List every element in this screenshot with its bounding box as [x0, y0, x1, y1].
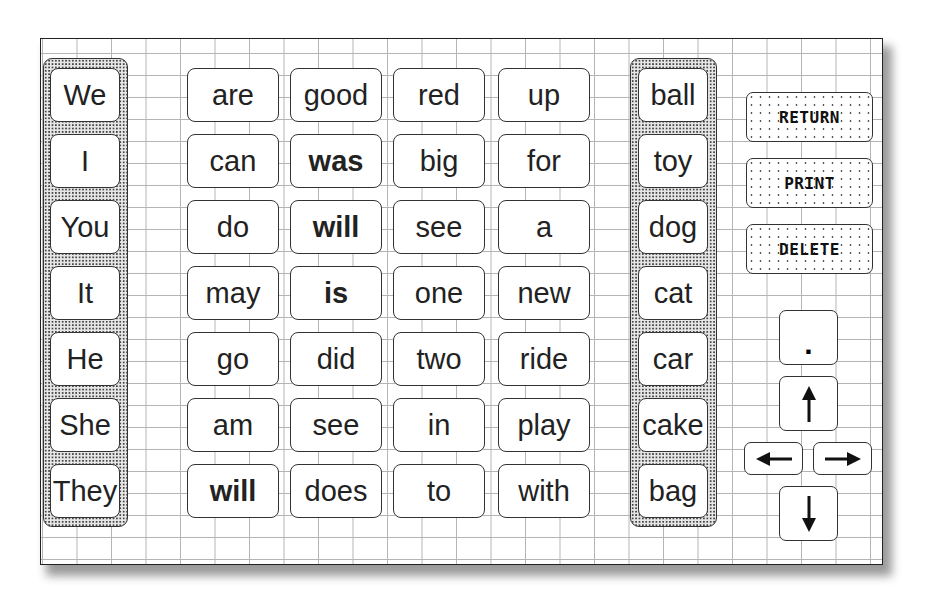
- word-label: She: [59, 409, 111, 442]
- word-button[interactable]: in: [393, 398, 485, 452]
- word-label: does: [305, 475, 368, 508]
- arrow-left-key[interactable]: [744, 442, 803, 475]
- pronoun-word-button[interactable]: He: [50, 332, 120, 386]
- noun-word-button[interactable]: dog: [638, 200, 708, 254]
- word-label: toy: [654, 145, 693, 178]
- noun-word-button[interactable]: bag: [638, 464, 708, 518]
- noun-word-button[interactable]: cake: [638, 398, 708, 452]
- word-label: up: [528, 79, 560, 112]
- word-label: new: [517, 277, 570, 310]
- word-button[interactable]: may: [187, 266, 279, 320]
- word-button[interactable]: big: [393, 134, 485, 188]
- arrow-up-icon: [799, 384, 819, 424]
- noun-word-button[interactable]: ball: [638, 68, 708, 122]
- word-button[interactable]: see: [393, 200, 485, 254]
- word-button[interactable]: play: [498, 398, 590, 452]
- pronoun-word-button[interactable]: She: [50, 398, 120, 452]
- word-button[interactable]: with: [498, 464, 590, 518]
- word-label: one: [415, 277, 463, 310]
- word-label: good: [304, 79, 369, 112]
- word-label: We: [64, 79, 107, 112]
- word-label: will: [313, 211, 360, 244]
- noun-word-button[interactable]: car: [638, 332, 708, 386]
- word-label: am: [213, 409, 253, 442]
- word-label: dog: [649, 211, 697, 244]
- noun-word-button[interactable]: cat: [638, 266, 708, 320]
- arrow-right-key[interactable]: [813, 442, 872, 475]
- word-label: cake: [642, 409, 703, 442]
- period-label: .: [804, 327, 812, 361]
- word-label: It: [77, 277, 93, 310]
- delete-button[interactable]: DELETE: [746, 224, 873, 274]
- arrow-right-icon: [823, 449, 863, 469]
- pronoun-word-button[interactable]: It: [50, 266, 120, 320]
- word-button[interactable]: will: [290, 200, 382, 254]
- word-button[interactable]: two: [393, 332, 485, 386]
- word-label: can: [210, 145, 257, 178]
- word-button[interactable]: did: [290, 332, 382, 386]
- word-label: is: [324, 277, 348, 310]
- word-label: play: [517, 409, 570, 442]
- word-label: two: [416, 343, 461, 376]
- word-button[interactable]: do: [187, 200, 279, 254]
- pronoun-word-button[interactable]: We: [50, 68, 120, 122]
- word-label: go: [217, 343, 249, 376]
- pronoun-word-button[interactable]: I: [50, 134, 120, 188]
- arrow-left-icon: [754, 449, 794, 469]
- word-button[interactable]: was: [290, 134, 382, 188]
- pronoun-word-button[interactable]: You: [50, 200, 120, 254]
- word-button[interactable]: good: [290, 68, 382, 122]
- word-label: to: [427, 475, 451, 508]
- word-label: see: [313, 409, 360, 442]
- word-label: was: [309, 145, 364, 178]
- word-label: red: [418, 79, 460, 112]
- print-label: PRINT: [784, 174, 835, 193]
- word-label: see: [416, 211, 463, 244]
- word-label: You: [61, 211, 110, 244]
- word-button[interactable]: ride: [498, 332, 590, 386]
- word-label: did: [317, 343, 356, 376]
- word-button[interactable]: am: [187, 398, 279, 452]
- word-label: car: [653, 343, 693, 376]
- word-label: do: [217, 211, 249, 244]
- word-button[interactable]: red: [393, 68, 485, 122]
- print-button[interactable]: PRINT: [746, 158, 873, 208]
- noun-word-button[interactable]: toy: [638, 134, 708, 188]
- word-button[interactable]: a: [498, 200, 590, 254]
- word-button[interactable]: new: [498, 266, 590, 320]
- arrow-down-icon: [799, 494, 819, 534]
- word-label: ride: [520, 343, 568, 376]
- word-label: ball: [650, 79, 695, 112]
- word-label: for: [527, 145, 561, 178]
- word-button[interactable]: will: [187, 464, 279, 518]
- word-button[interactable]: can: [187, 134, 279, 188]
- word-button[interactable]: are: [187, 68, 279, 122]
- word-label: bag: [649, 475, 697, 508]
- word-button[interactable]: does: [290, 464, 382, 518]
- word-label: will: [210, 475, 257, 508]
- word-label: with: [518, 475, 570, 508]
- delete-label: DELETE: [779, 240, 840, 259]
- arrow-down-key[interactable]: [779, 486, 838, 541]
- word-label: in: [428, 409, 451, 442]
- word-label: He: [66, 343, 103, 376]
- word-button[interactable]: one: [393, 266, 485, 320]
- word-button[interactable]: is: [290, 266, 382, 320]
- period-key[interactable]: .: [779, 310, 838, 365]
- word-button[interactable]: for: [498, 134, 590, 188]
- word-label: may: [206, 277, 261, 310]
- word-label: I: [81, 145, 89, 178]
- arrow-up-key[interactable]: [779, 376, 838, 431]
- word-button[interactable]: up: [498, 68, 590, 122]
- return-button[interactable]: RETURN: [746, 92, 873, 142]
- word-label: are: [212, 79, 254, 112]
- word-button[interactable]: to: [393, 464, 485, 518]
- pronoun-word-button[interactable]: They: [50, 464, 120, 518]
- return-label: RETURN: [779, 108, 840, 127]
- word-button[interactable]: go: [187, 332, 279, 386]
- word-label: big: [420, 145, 459, 178]
- word-label: cat: [654, 277, 693, 310]
- word-label: a: [536, 211, 552, 244]
- word-label: They: [53, 475, 117, 508]
- word-button[interactable]: see: [290, 398, 382, 452]
